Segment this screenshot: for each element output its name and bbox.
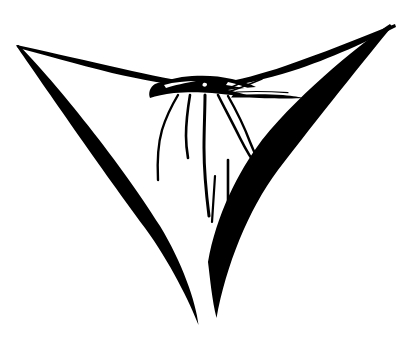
bandana-illustration [0, 0, 407, 345]
artwork-canvas: A black ink line drawing of a triangular… [0, 0, 407, 345]
